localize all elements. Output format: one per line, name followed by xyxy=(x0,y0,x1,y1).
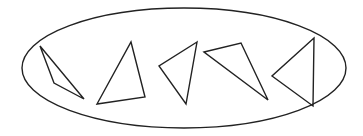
set-diagram xyxy=(0,0,363,136)
triangle-5 xyxy=(272,38,314,106)
set-ellipse xyxy=(22,8,346,128)
triangle-4 xyxy=(204,43,268,100)
triangle-3 xyxy=(159,42,197,104)
triangle-1 xyxy=(40,46,84,99)
triangle-2 xyxy=(97,42,145,104)
